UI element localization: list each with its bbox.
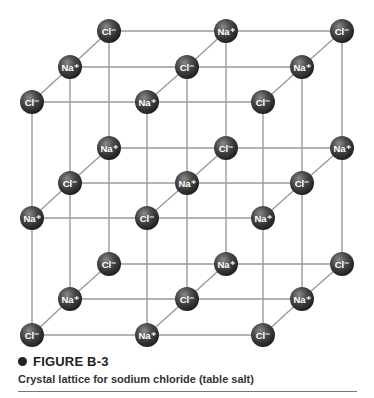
chloride-ion-sphere: Cl⁻ <box>214 136 238 160</box>
ion-label: Cl⁻ <box>256 330 271 341</box>
ion-label: Cl⁻ <box>335 26 350 37</box>
chloride-ion-sphere: Cl⁻ <box>330 252 354 276</box>
ion-label: Na⁺ <box>61 294 78 305</box>
ion-label: Na⁺ <box>293 294 310 305</box>
sodium-ion-sphere: Na⁺ <box>135 90 159 114</box>
ion-label: Na⁺ <box>100 143 117 154</box>
ion-label: Na⁺ <box>138 330 155 341</box>
figure-number-label: FIGURE B-3 <box>33 354 109 369</box>
chloride-ion-sphere: Cl⁻ <box>97 252 121 276</box>
sodium-ion-sphere: Na⁺ <box>214 19 238 43</box>
chloride-ion-sphere: Cl⁻ <box>20 323 44 347</box>
figure-caption: FIGURE B-3 Crystal lattice for sodium ch… <box>18 354 358 385</box>
chloride-ion-sphere: Cl⁻ <box>251 323 275 347</box>
ion-label: Na⁺ <box>293 62 310 73</box>
figure-description: Crystal lattice for sodium chloride (tab… <box>18 373 358 385</box>
figure-number: FIGURE B-3 <box>18 354 358 369</box>
ion-label: Cl⁻ <box>25 330 40 341</box>
caption-rule <box>18 391 357 392</box>
sodium-ion-sphere: Na⁺ <box>97 136 121 160</box>
chloride-ion-sphere: Cl⁻ <box>251 90 275 114</box>
bullet-icon <box>18 357 27 366</box>
chloride-ion-sphere: Cl⁻ <box>330 19 354 43</box>
sodium-ion-sphere: Na⁺ <box>214 252 238 276</box>
sodium-ion-sphere: Na⁺ <box>251 206 275 230</box>
sodium-ion-sphere: Na⁺ <box>135 323 159 347</box>
sodium-ion-sphere: Na⁺ <box>20 206 44 230</box>
ion-label: Cl⁻ <box>63 178 78 189</box>
chloride-ion-sphere: Cl⁻ <box>20 90 44 114</box>
ion-label: Cl⁻ <box>180 294 195 305</box>
ion-label: Cl⁻ <box>335 259 350 270</box>
ion-label: Cl⁻ <box>25 97 40 108</box>
sodium-ion-sphere: Na⁺ <box>290 55 314 79</box>
chloride-ion-sphere: Cl⁻ <box>97 19 121 43</box>
sodium-ion-sphere: Na⁺ <box>330 136 354 160</box>
ion-label: Na⁺ <box>254 213 271 224</box>
chloride-ion-sphere: Cl⁻ <box>58 171 82 195</box>
chloride-ion-sphere: Cl⁻ <box>175 287 199 311</box>
chloride-ion-sphere: Cl⁻ <box>175 55 199 79</box>
nacl-lattice-diagram: Cl⁻Na⁺Cl⁻Na⁺Cl⁻Na⁺Cl⁻Na⁺Cl⁻Na⁺Cl⁻Na⁺Cl⁻N… <box>0 0 374 350</box>
ion-label: Na⁺ <box>138 97 155 108</box>
ion-label: Na⁺ <box>217 259 234 270</box>
ion-label: Na⁺ <box>61 62 78 73</box>
ion-label: Na⁺ <box>23 213 40 224</box>
sodium-ion-sphere: Na⁺ <box>290 287 314 311</box>
sodium-ion-sphere: Na⁺ <box>175 171 199 195</box>
chloride-ion-sphere: Cl⁻ <box>135 206 159 230</box>
ion-label: Cl⁻ <box>219 143 234 154</box>
ion-label: Cl⁻ <box>295 178 310 189</box>
ion-spheres: Cl⁻Na⁺Cl⁻Na⁺Cl⁻Na⁺Cl⁻Na⁺Cl⁻Na⁺Cl⁻Na⁺Cl⁻N… <box>20 19 354 347</box>
sodium-ion-sphere: Na⁺ <box>58 287 82 311</box>
ion-label: Cl⁻ <box>102 26 117 37</box>
ion-label: Cl⁻ <box>140 213 155 224</box>
ion-label: Na⁺ <box>333 143 350 154</box>
ion-label: Cl⁻ <box>256 97 271 108</box>
ion-label: Na⁺ <box>178 178 195 189</box>
ion-label: Cl⁻ <box>102 259 117 270</box>
ion-label: Na⁺ <box>217 26 234 37</box>
ion-label: Cl⁻ <box>180 62 195 73</box>
sodium-ion-sphere: Na⁺ <box>58 55 82 79</box>
chloride-ion-sphere: Cl⁻ <box>290 171 314 195</box>
